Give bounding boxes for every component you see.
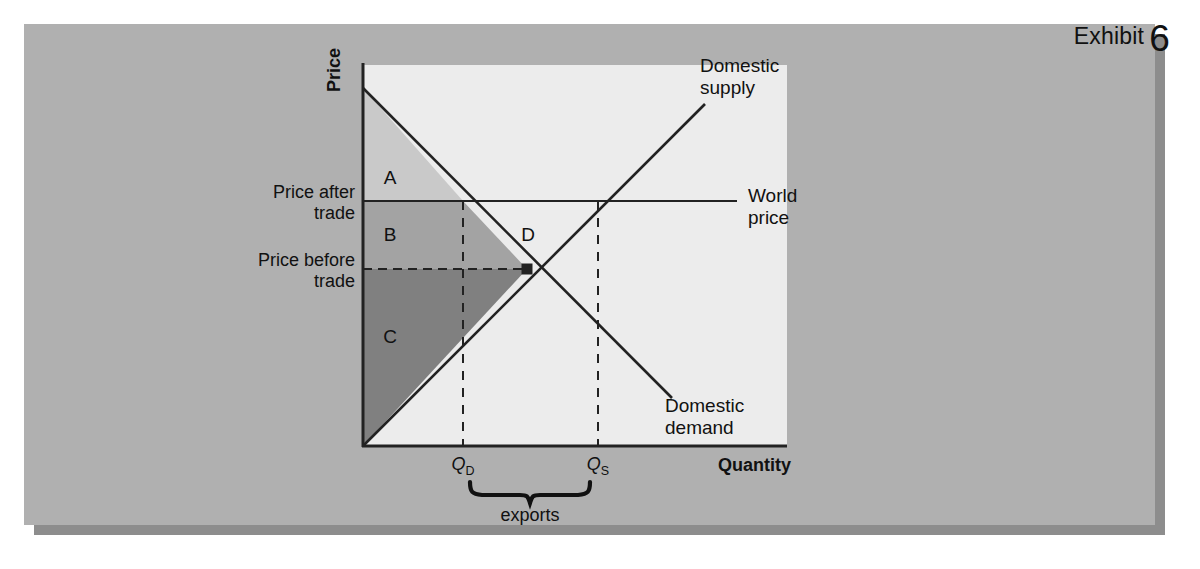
- exhibit-word: Exhibit: [1074, 23, 1144, 49]
- exhibit-panel: [24, 24, 1155, 525]
- exhibit-number: 6: [1149, 18, 1170, 59]
- exhibit-label: Exhibit6: [1074, 18, 1170, 60]
